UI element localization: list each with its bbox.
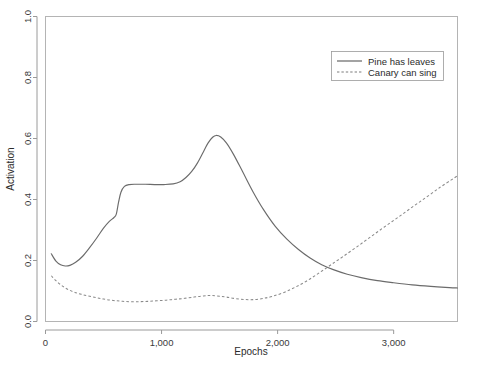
legend-label-canary-can-sing: Canary can sing [368, 67, 437, 78]
y-axis: 0.00.20.40.60.81.0 [22, 10, 37, 328]
y-tick-label: 0.4 [22, 193, 33, 206]
series-line-pine-has-leaves [51, 135, 457, 288]
x-tick-label: 2,000 [266, 337, 290, 348]
x-axis-title: Epochs [234, 346, 267, 357]
x-tick-label: 1,000 [150, 337, 174, 348]
x-tick-label: 3,000 [382, 337, 406, 348]
y-tick-label: 1.0 [22, 10, 33, 23]
y-axis-title: Activation [5, 147, 16, 190]
x-axis: 01,0002,0003,000 [43, 330, 406, 348]
x-tick-label: 0 [43, 337, 48, 348]
chart-legend: Pine has leaves Canary can sing [332, 52, 444, 81]
chart-figure: 01,0002,0003,000 0.00.20.40.60.81.0 Epoc… [0, 0, 477, 370]
data-series-group [51, 135, 457, 301]
y-tick-label: 0.2 [22, 254, 33, 267]
y-tick-label: 0.6 [22, 132, 33, 145]
y-tick-label: 0.0 [22, 315, 33, 328]
line-chart: 01,0002,0003,000 0.00.20.40.60.81.0 Epoc… [0, 0, 477, 370]
y-tick-label: 0.8 [22, 71, 33, 84]
legend-label-pine-has-leaves: Pine has leaves [368, 56, 435, 67]
